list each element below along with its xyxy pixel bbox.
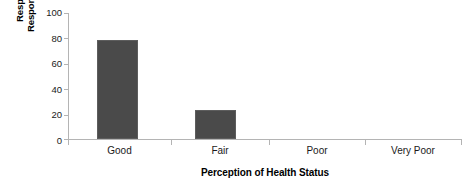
y-tick-label-80: 80	[36, 34, 62, 44]
bar-good	[97, 40, 138, 139]
y-tick-label-40: 40	[36, 85, 62, 95]
plot-area	[68, 13, 462, 140]
x-category-label-good: Good	[68, 145, 171, 157]
y-tick-label-20: 20	[36, 110, 62, 120]
y-tick-label-60: 60	[36, 59, 62, 69]
x-category-label-very-poor: Very Poor	[365, 145, 461, 157]
x-category-label-poor: Poor	[269, 145, 365, 157]
y-tick-label-100: 100	[36, 8, 62, 18]
x-category-label-fair: Fair	[171, 145, 269, 157]
bars-layer	[68, 13, 462, 140]
y-axis-title-line-1: Response of	[14, 0, 25, 50]
x-axis-title: Perception of Health Status	[68, 167, 462, 179]
bar-chart-figure: Response of Respondents (%) 100 80 60 40…	[0, 0, 467, 188]
bar-fair	[195, 110, 236, 139]
y-tick-label-0: 0	[36, 136, 62, 146]
y-axis-tick-labels: 100 80 60 40 20 0	[36, 0, 62, 188]
y-axis-title-line-2: Respondents (%)	[25, 0, 36, 50]
x-axis-category-labels: Good Fair Poor Very Poor	[68, 145, 462, 161]
